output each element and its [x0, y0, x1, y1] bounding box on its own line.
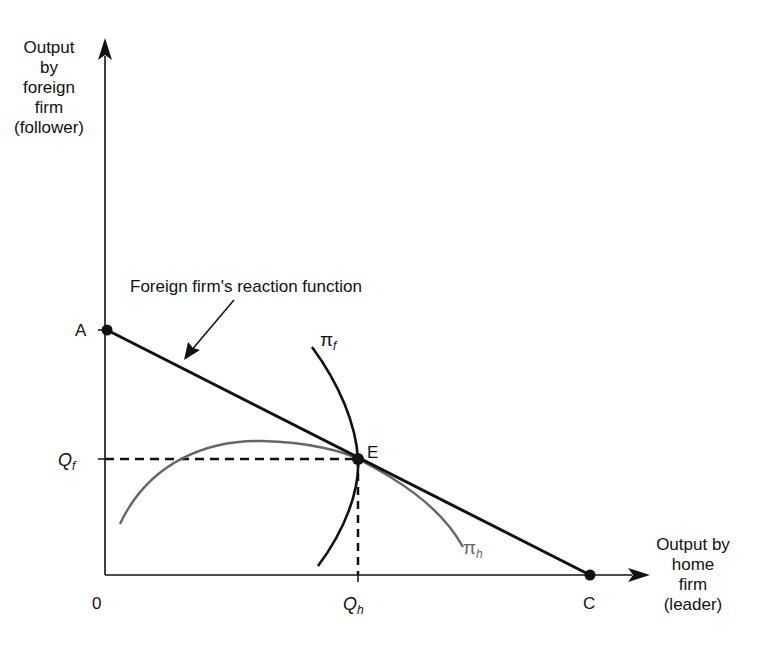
x-axis-label-line: (leader) — [643, 595, 743, 615]
qf-label: Qf — [58, 450, 75, 476]
reaction-function-line — [107, 330, 590, 575]
pi-h-subscript: h — [476, 547, 483, 561]
qf-symbol: Q — [58, 450, 72, 470]
x-axis-label-line: Output by — [643, 535, 743, 555]
x-axis-label-line: home — [643, 555, 743, 575]
qh-subscript: h — [357, 603, 364, 617]
point-c-label: C — [583, 594, 595, 614]
qh-label: Qh — [343, 594, 364, 620]
y-axis-label-line: by — [4, 58, 94, 78]
point-a-label: A — [75, 321, 86, 341]
pi-f-subscript: f — [333, 339, 336, 353]
qf-subscript: f — [72, 459, 75, 473]
annotation-arrow-head-icon — [184, 342, 200, 360]
point-a-dot — [102, 325, 113, 336]
y-axis-label-line: (follower) — [4, 118, 94, 138]
annotation-arrow — [190, 300, 234, 352]
pi-f-label: πf — [320, 330, 336, 356]
point-c-dot — [585, 570, 596, 581]
qh-symbol: Q — [343, 594, 357, 614]
y-axis-label-line: Output — [4, 38, 94, 58]
y-axis-label-line: firm — [4, 98, 94, 118]
y-axis-label-line: foreign — [4, 78, 94, 98]
pi-h-symbol: π — [463, 537, 476, 558]
y-axis-label: Output by foreign firm (follower) — [4, 38, 94, 138]
origin-label: 0 — [92, 594, 101, 614]
pi-f-symbol: π — [320, 329, 333, 350]
x-axis-label: Output by home firm (leader) — [643, 535, 743, 615]
x-axis-label-line: firm — [643, 575, 743, 595]
pi-h-label: πh — [463, 538, 483, 564]
point-e-dot — [352, 453, 364, 465]
reaction-function-annotation: Foreign firm's reaction function — [130, 277, 362, 297]
point-e-label: E — [367, 443, 378, 463]
pi-h-curve — [120, 441, 463, 547]
